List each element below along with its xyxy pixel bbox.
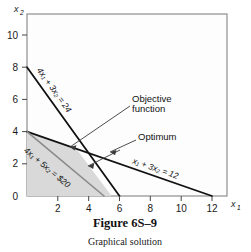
annotation-objective-line2: function: [132, 103, 165, 114]
graphical-solution-figure: 2 4 6 8 10 12 0 2 4 6 8 10 x 2 x 1 4x₁ +…: [0, 0, 251, 252]
y-axis-name: x 2: [13, 4, 24, 16]
y-tick-label-6: 6: [12, 94, 18, 105]
y-tick-label-8: 8: [12, 62, 18, 73]
y-axis-name-main: x: [13, 4, 19, 14]
annotation-optimum: Optimum: [138, 131, 177, 142]
x-tick-label-8: 8: [148, 203, 154, 214]
y-tick-label-10: 10: [7, 30, 19, 41]
x-tick-label-4: 4: [86, 203, 92, 214]
y-tick-label-0: 0: [12, 191, 18, 202]
x-axis-ticks: [58, 196, 212, 201]
x-tick-label-12: 12: [206, 203, 218, 214]
x-tick-label-2: 2: [55, 203, 61, 214]
figure-caption-title: Figure 6S–9: [93, 216, 157, 230]
x-tick-label-10: 10: [176, 203, 188, 214]
x-tick-label-6: 6: [117, 203, 123, 214]
y-tick-label-4: 4: [12, 126, 18, 137]
y-axis-ticks: [22, 35, 27, 164]
figure-container: 2 4 6 8 10 12 0 2 4 6 8 10 x 2 x 1 4x₁ +…: [0, 0, 251, 252]
x-axis-name: x 1: [230, 199, 241, 211]
y-tick-label-2: 2: [12, 158, 18, 169]
x-axis-name-main: x: [230, 199, 236, 209]
figure-caption-subtitle: Graphical solution: [88, 236, 162, 247]
y-axis-name-sub: 2: [19, 9, 24, 16]
x-axis-name-sub: 1: [237, 204, 241, 211]
